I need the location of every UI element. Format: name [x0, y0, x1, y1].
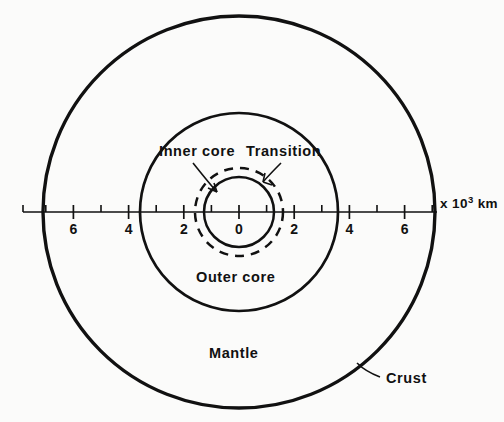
- transition-leader-line: [263, 163, 281, 182]
- axis-unit-label: x 103 km: [440, 196, 498, 211]
- transition-label: Transition: [246, 143, 321, 159]
- mantle-label: Mantle: [209, 345, 259, 361]
- axis-tick-label-zero: 0: [235, 221, 243, 237]
- earth-structure-diagram-page: 6 4 2 0 2 4 6 x 103 km Inner core Transi…: [0, 0, 504, 422]
- inner-core-label: Inner core: [159, 143, 235, 159]
- axis-tick-label-plus4: 4: [345, 221, 353, 237]
- axis-tick-label-minus4: 4: [125, 221, 133, 237]
- axis-tick-label-plus2: 2: [290, 221, 298, 237]
- crust-leader-line: [357, 363, 380, 377]
- crust-label: Crust: [386, 370, 427, 386]
- axis-unit-mantissa: x 10: [440, 196, 468, 211]
- scale-axis-minor-ticks: [23, 205, 432, 212]
- axis-unit-suffix: km: [474, 196, 498, 211]
- axis-tick-label-plus6: 6: [401, 221, 409, 237]
- axis-tick-label-minus6: 6: [69, 221, 77, 237]
- axis-tick-label-minus2: 2: [180, 221, 188, 237]
- outer-core-label: Outer core: [196, 269, 275, 285]
